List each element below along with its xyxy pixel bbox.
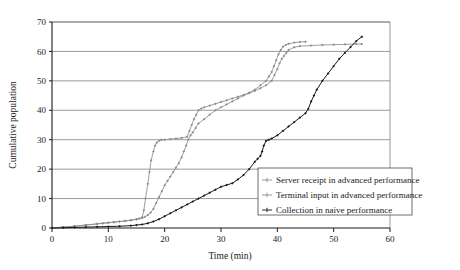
y-tick-label-60: 60 bbox=[37, 47, 47, 57]
legend-label-0: Server receipt in advanced performance bbox=[276, 175, 419, 185]
legend-entry-1[interactable]: Terminal input in advanced performance bbox=[262, 190, 422, 200]
x-axis-title: Time (min) bbox=[208, 251, 251, 262]
x-tick-label-60: 60 bbox=[386, 234, 396, 244]
y-tick-label-20: 20 bbox=[37, 164, 47, 174]
y-tick-label-30: 30 bbox=[37, 135, 47, 145]
cumulative-population-chart: 010203040506070 0102030405060 Time (min)… bbox=[0, 0, 460, 270]
y-tick-label-50: 50 bbox=[37, 76, 47, 86]
x-tick-label-30: 30 bbox=[217, 234, 227, 244]
x-tick-label-50: 50 bbox=[329, 234, 339, 244]
chart-figure: 010203040506070 0102030405060 Time (min)… bbox=[0, 0, 460, 270]
y-axis-title: Cumulative population bbox=[8, 81, 18, 169]
x-tick-label-40: 40 bbox=[273, 234, 283, 244]
x-tick-label-10: 10 bbox=[104, 234, 114, 244]
chart-legend[interactable]: Server receipt in advanced performanceTe… bbox=[258, 168, 422, 215]
x-tick-label-20: 20 bbox=[160, 234, 170, 244]
legend-label-1: Terminal input in advanced performance bbox=[276, 190, 422, 200]
chart-background bbox=[0, 0, 460, 270]
legend-entry-0[interactable]: Server receipt in advanced performance bbox=[262, 175, 419, 185]
legend-entry-2[interactable]: Collection in naive performance bbox=[262, 205, 392, 215]
y-tick-label-10: 10 bbox=[37, 194, 47, 204]
x-tick-label-0: 0 bbox=[50, 234, 55, 244]
y-tick-label-70: 70 bbox=[37, 17, 47, 27]
y-tick-label-40: 40 bbox=[37, 105, 47, 115]
y-tick-label-0: 0 bbox=[42, 223, 47, 233]
legend-label-2: Collection in naive performance bbox=[276, 205, 392, 215]
